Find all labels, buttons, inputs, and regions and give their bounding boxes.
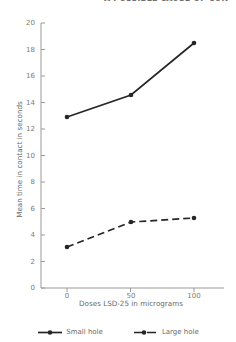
legend-item-small-hole[interactable]: Small hole bbox=[37, 328, 103, 337]
legend-key-dashed-icon bbox=[133, 328, 159, 337]
y-tick-label: 16 bbox=[15, 72, 35, 80]
y-axis-title: Mean time in contact in seconds bbox=[15, 85, 24, 235]
legend-key-solid-icon bbox=[37, 328, 63, 337]
legend-label: Small hole bbox=[66, 328, 103, 336]
y-tick-label: 2 bbox=[15, 258, 35, 266]
data-point bbox=[65, 245, 70, 250]
legend-label: Large hole bbox=[162, 328, 199, 336]
data-point bbox=[192, 216, 197, 221]
data-point bbox=[65, 115, 70, 120]
series-small-hole bbox=[65, 41, 197, 120]
data-point bbox=[192, 41, 197, 46]
plot-area bbox=[0, 0, 236, 342]
y-axis bbox=[41, 23, 45, 288]
y-tick-label: 0 bbox=[15, 284, 35, 292]
data-point bbox=[129, 220, 134, 225]
series-large-hole bbox=[65, 216, 197, 250]
chart-container: A POSSIBLE CAUSE OF CON bbox=[0, 0, 236, 342]
y-tick-label: 18 bbox=[15, 46, 35, 54]
data-point bbox=[129, 93, 134, 98]
y-tick-label: 20 bbox=[15, 19, 35, 27]
chart-legend: Small hole Large hole bbox=[0, 325, 236, 339]
x-axis-title: Doses LSD-25 in micrograms bbox=[36, 299, 226, 308]
legend-item-large-hole[interactable]: Large hole bbox=[133, 328, 199, 337]
